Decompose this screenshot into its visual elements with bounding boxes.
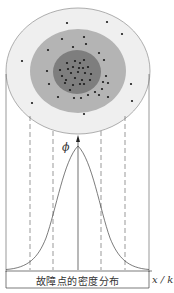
density-curve [6,146,149,270]
x-axis-label: x / km [152,274,174,285]
fault-density-diagram [0,0,174,293]
phi-axis [76,135,80,270]
figure-caption: 故障点的密度分布 [6,272,149,288]
arrow-up-icon [76,135,80,142]
phi-axis-label: ϕ [62,141,70,154]
